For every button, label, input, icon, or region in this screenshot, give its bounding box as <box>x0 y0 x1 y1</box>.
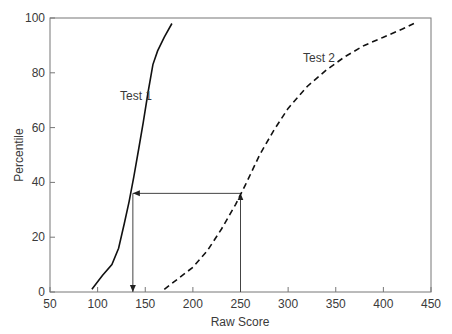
test2-line <box>164 24 414 290</box>
annotation-arrows <box>133 193 241 292</box>
x-axis-ticks: 50100150200250300350400450 <box>43 287 441 311</box>
x-tick-label: 450 <box>421 297 441 311</box>
x-tick-label: 350 <box>326 297 346 311</box>
x-tick-label: 100 <box>88 297 108 311</box>
y-tick-label: 0 <box>38 285 45 299</box>
y-tick-label: 80 <box>32 66 46 80</box>
x-tick-label: 50 <box>43 297 57 311</box>
x-tick-label: 400 <box>373 297 393 311</box>
y-tick-label: 40 <box>32 175 46 189</box>
test1-line <box>92 24 172 290</box>
test2-label: Test 2 <box>303 51 335 65</box>
x-tick-label: 250 <box>230 297 250 311</box>
y-tick-label: 60 <box>32 121 46 135</box>
percentile-chart: 50100150200250300350400450 020406080100 … <box>0 0 452 334</box>
y-tick-label: 20 <box>32 230 46 244</box>
test1-label: Test 1 <box>120 89 152 103</box>
y-axis-label: Percentile <box>12 128 26 182</box>
x-tick-label: 300 <box>278 297 298 311</box>
x-tick-label: 150 <box>135 297 155 311</box>
y-tick-label: 100 <box>25 11 45 25</box>
x-tick-label: 200 <box>183 297 203 311</box>
x-axis-label: Raw Score <box>211 315 270 329</box>
